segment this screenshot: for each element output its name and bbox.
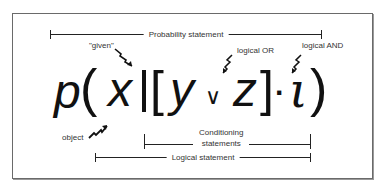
probability-statement-bracket: Probability statement xyxy=(50,30,322,39)
conditioning-label-line1: Conditioning xyxy=(199,127,243,138)
bracket-cap-right xyxy=(310,153,311,162)
given-label: "given" xyxy=(89,42,114,50)
formula-open-bracket: [ xyxy=(150,60,164,118)
logical-and-label: logical AND xyxy=(302,42,343,50)
formula-p: p xyxy=(54,64,81,119)
probability-statement-label: Probability statement xyxy=(144,29,229,40)
formula-close-paren: ) xyxy=(310,58,327,118)
bracket-cap-left xyxy=(144,134,145,149)
bracket-cap-right xyxy=(321,30,322,39)
formula-given-bar xyxy=(142,70,146,112)
formula-and-symbol: · xyxy=(275,76,285,110)
logical-or-label: logical OR xyxy=(237,47,274,55)
object-arrow-icon xyxy=(88,124,108,140)
conditioning-statements-label: Conditioning statements xyxy=(193,127,249,149)
bracket-cap-left xyxy=(95,153,96,162)
formula-y: y xyxy=(170,62,194,117)
formula-z: z xyxy=(233,62,257,117)
logical-statement-label: Logical statement xyxy=(167,152,240,163)
object-label: object xyxy=(62,134,83,142)
logical-statement-bracket: Logical statement xyxy=(95,153,311,162)
formula-x: x xyxy=(108,62,132,117)
formula-open-paren: ( xyxy=(80,58,97,118)
conditioning-label-line2: statements xyxy=(199,138,243,149)
bracket-cap-right xyxy=(310,134,311,149)
formula-iota: ι xyxy=(289,62,308,118)
formula-or-symbol: ∨ xyxy=(205,84,221,110)
formula-close-bracket: ] xyxy=(260,60,274,118)
probability-statement-text: Probability statement xyxy=(149,30,224,39)
bracket-cap-left xyxy=(50,30,51,39)
